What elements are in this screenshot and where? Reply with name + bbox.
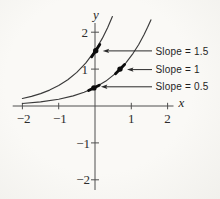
tangent-point-dot — [117, 66, 122, 71]
axes: −2−112 21−1−2 x y — [13, 7, 185, 190]
tangent-point-dot — [91, 85, 96, 90]
tangent-point-dot — [93, 48, 98, 53]
slope-label-0-5: Slope = 0.5 — [156, 81, 209, 92]
x-tick-label: −2 — [17, 111, 31, 126]
slope-label-1: Slope = 1 — [156, 64, 201, 75]
y-tick-label: 2 — [82, 25, 89, 40]
x-tick-label: 2 — [164, 111, 171, 126]
y-tick-label: −1 — [76, 136, 90, 151]
y-tick-label: −2 — [76, 172, 90, 187]
slope-annotations: Slope = 1.5Slope = 1Slope = 0.5 — [101, 46, 209, 93]
x-tick-label: −1 — [53, 111, 67, 126]
y-axis-label: y — [91, 7, 99, 22]
slope-figure-canvas: −2−112 21−1−2 x y Slope = 1.5Slope = 1Sl… — [0, 0, 220, 199]
slope-label-1-5: Slope = 1.5 — [156, 46, 209, 57]
x-axis-label: x — [178, 95, 185, 110]
x-tick-label: 1 — [128, 111, 135, 126]
scanned-figure-page: −2−112 21−1−2 x y Slope = 1.5Slope = 1Sl… — [0, 0, 220, 199]
